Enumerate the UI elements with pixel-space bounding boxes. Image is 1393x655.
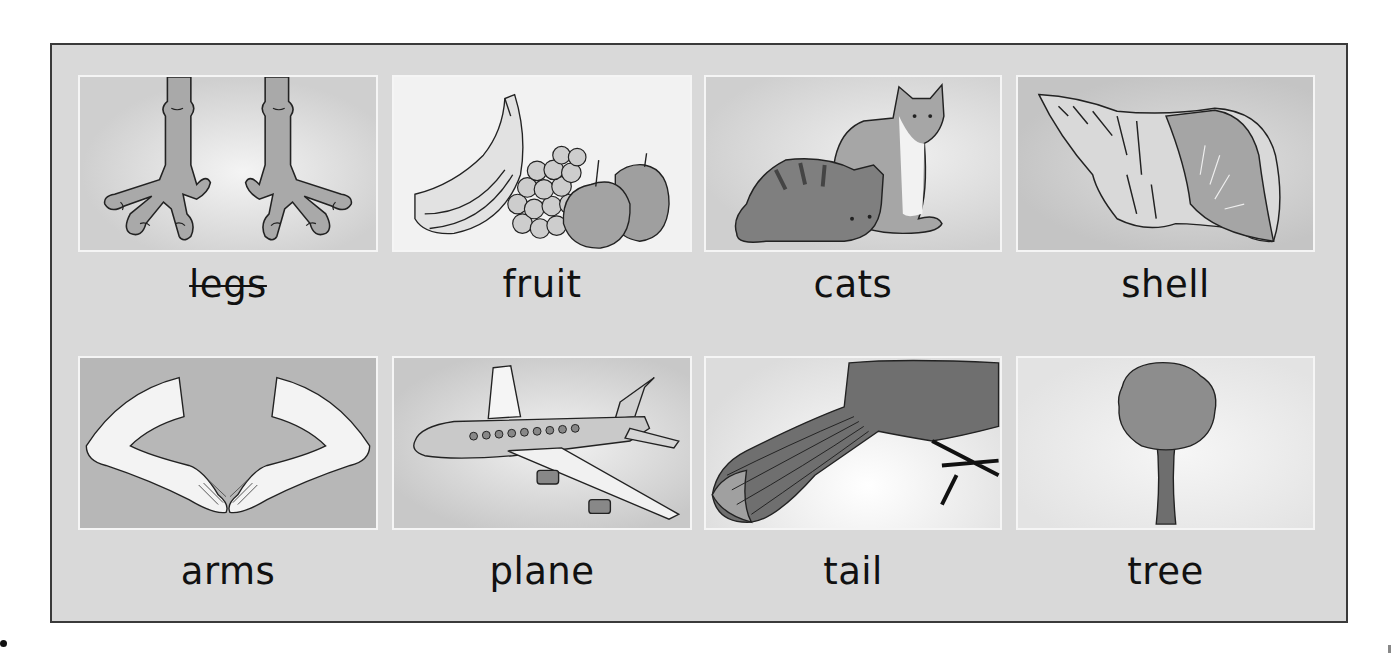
card-image-tail [704, 356, 1002, 530]
two-cats-icon [706, 77, 1000, 250]
scan-artifact-mark [1388, 645, 1391, 653]
card-image-shell [1016, 75, 1315, 252]
tree-icon [1018, 358, 1313, 528]
card-image-legs [78, 75, 378, 252]
airplane-icon [394, 358, 690, 528]
card-image-arms [78, 356, 378, 530]
card-label-tail: tail [704, 553, 1002, 590]
card-image-tree [1016, 356, 1315, 530]
sea-shell-icon [1018, 77, 1313, 250]
card-image-plane [392, 356, 692, 530]
card-label-shell: shell [1016, 266, 1315, 303]
card-image-cats [704, 75, 1002, 252]
card-label-cats: cats [704, 266, 1002, 303]
card-image-fruit [392, 75, 692, 252]
card-label-plane: plane [392, 553, 692, 590]
bird-feet-icon [80, 77, 376, 250]
card-label-tree: tree [1016, 553, 1315, 590]
arms-icon [80, 358, 376, 528]
card-label-arms: arms [78, 553, 378, 590]
scan-artifact-dot [0, 640, 7, 647]
card-label-legs: legs [78, 266, 378, 303]
fruit-bowl-icon [394, 77, 690, 250]
bird-tail-icon [706, 358, 1000, 528]
card-label-fruit: fruit [392, 266, 692, 303]
